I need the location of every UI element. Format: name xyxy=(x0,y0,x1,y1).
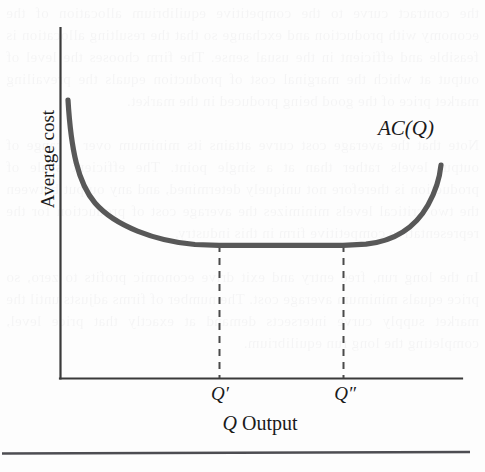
average-cost-curve-figure: the contract curve to the competitive eq… xyxy=(0,0,485,472)
curve-label-ac-of-q: AC(Q) xyxy=(378,116,434,141)
x-axis-title-word: Output xyxy=(242,412,298,434)
x-tick-label-q-prime: Q′ xyxy=(199,383,241,405)
plot-area xyxy=(0,0,485,472)
x-tick-label-q-double-prime: Q″ xyxy=(321,383,369,405)
x-axis-title-symbol: Q xyxy=(222,412,236,434)
page-bottom-rule xyxy=(2,452,470,454)
x-axis-title: Q Output xyxy=(160,412,360,435)
y-axis-title: Average cost xyxy=(37,69,59,249)
